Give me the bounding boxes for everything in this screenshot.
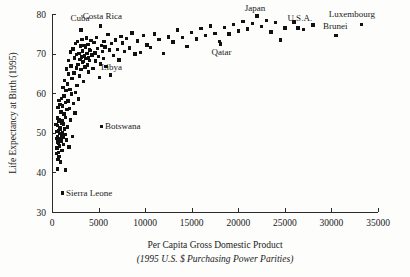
scatter-point: [88, 59, 91, 62]
y-axis-ticks: [52, 15, 56, 213]
scatter-point-highlighted: [109, 73, 112, 76]
scatter-point: [94, 59, 97, 62]
scatter-point: [260, 25, 263, 28]
scatter-point: [65, 138, 68, 141]
scatter-point-highlighted: [255, 14, 258, 17]
scatter-point: [283, 26, 286, 29]
scatter-point: [204, 34, 207, 37]
scatter-point: [190, 31, 193, 34]
scatter-point: [279, 38, 282, 41]
scatter-point: [96, 47, 99, 50]
scatter-point: [60, 149, 63, 152]
scatter-point: [71, 135, 74, 138]
scatter-point: [57, 155, 60, 158]
x-tick-label: 15000: [180, 218, 204, 228]
y-tick-label: 80: [37, 10, 47, 20]
scatter-point: [61, 104, 64, 107]
country-annotations-group: CubaCosta RicaJapanU.S.A.LuxembourgBrune…: [61, 3, 376, 198]
scatter-point: [91, 67, 94, 70]
scatter-point: [62, 122, 65, 125]
scatter-point: [102, 57, 105, 60]
scatter-point: [123, 50, 126, 53]
x-tick-label: 5000: [89, 218, 108, 228]
scatter-point: [77, 52, 80, 55]
scatter-point: [274, 21, 277, 24]
scatter-point: [145, 43, 148, 46]
scatter-point: [100, 44, 103, 47]
scatter-point: [59, 160, 62, 163]
scatter-point-highlighted: [79, 28, 82, 31]
scatter-point: [227, 32, 230, 35]
x-axis-tick-labels: 05000100001500020000250003000035000: [50, 218, 391, 228]
scatter-point: [82, 80, 85, 83]
scatter-point: [101, 50, 104, 53]
scatter-point: [121, 41, 124, 44]
scatter-point: [241, 20, 244, 23]
scatter-point: [176, 28, 179, 31]
scatter-point: [67, 72, 70, 75]
scatter-point: [79, 68, 82, 71]
scatter-point: [153, 32, 156, 35]
scatter-point: [106, 33, 109, 36]
scatter-point: [81, 49, 84, 52]
scatter-point: [181, 36, 184, 39]
scatter-point: [64, 116, 67, 119]
scatter-point: [265, 19, 268, 22]
scatter-point: [88, 49, 91, 52]
scatter-point: [93, 51, 96, 54]
scatter-point: [68, 107, 71, 110]
scatter-point: [73, 56, 76, 59]
scatter-point: [80, 38, 83, 41]
scatter-point: [62, 94, 65, 97]
scatter-point: [149, 46, 152, 49]
scatter-point: [78, 74, 81, 77]
scatter-point: [63, 133, 66, 136]
scatter-point: [65, 67, 68, 70]
scatter-point: [110, 42, 113, 45]
scatter-point: [213, 32, 216, 35]
scatter-point: [102, 40, 105, 43]
scatter-point: [60, 119, 63, 122]
scatter-point: [128, 46, 131, 49]
y-axis-tick-labels: 304050607080: [37, 10, 47, 218]
y-tick-label: 40: [37, 168, 47, 178]
scatter-point: [71, 47, 74, 50]
scatter-point: [75, 66, 78, 69]
x-tick-label: 35000: [366, 218, 390, 228]
scatter-point: [66, 125, 69, 128]
scatter-point: [223, 26, 226, 29]
scatter-point: [251, 22, 254, 25]
annotation-label: Luxembourg: [329, 9, 376, 19]
scatter-point: [125, 37, 128, 40]
scatter-point-highlighted: [61, 191, 64, 194]
scatter-point: [58, 144, 61, 147]
scatter-point: [97, 55, 100, 58]
scatter-point: [62, 143, 65, 146]
scatter-points-group: [54, 15, 362, 172]
annotation-label: Japan: [245, 3, 266, 13]
scatter-point: [79, 44, 82, 47]
scatter-point: [72, 102, 75, 105]
scatter-point: [157, 38, 160, 41]
scatter-point: [67, 145, 70, 148]
scatter-point: [85, 52, 88, 55]
scatter-point: [68, 88, 71, 91]
y-tick-label: 60: [37, 89, 47, 99]
scatter-point: [73, 111, 76, 114]
scatter-point: [85, 36, 88, 39]
x-axis-ticks: [53, 208, 379, 212]
scatter-point: [61, 86, 64, 89]
scatter-point: [59, 128, 62, 131]
y-axis-title: Life Expectancy at Birth (1995): [8, 52, 19, 173]
scatter-point: [114, 38, 117, 41]
scatter-point: [142, 34, 145, 37]
y-tick-label: 30: [37, 208, 47, 218]
annotation-label: Qatar: [212, 47, 232, 57]
scatter-point: [162, 52, 165, 55]
x-tick-label: 10000: [133, 218, 157, 228]
scatter-point: [69, 50, 72, 53]
scatter-point: [119, 35, 122, 38]
scatter-point: [116, 48, 119, 51]
scatter-point: [72, 71, 75, 74]
scatter-point: [185, 45, 188, 48]
